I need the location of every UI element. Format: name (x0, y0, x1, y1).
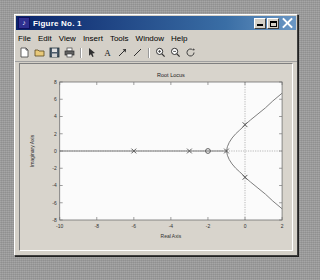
maximize-button[interactable] (267, 18, 279, 29)
insert-line-icon[interactable] (131, 46, 144, 59)
svg-text:A: A (104, 48, 111, 58)
menu-item-view[interactable]: View (59, 34, 76, 43)
window-title: Figure No. 1 (33, 19, 253, 28)
y-tick-label: 2 (54, 131, 57, 137)
y-tick-label: -6 (52, 200, 57, 206)
close-button[interactable] (280, 17, 295, 30)
x-tick-label: 0 (244, 223, 247, 229)
minimize-button[interactable] (254, 18, 266, 29)
menu-item-insert[interactable]: Insert (83, 34, 103, 43)
print-figure-icon[interactable] (63, 46, 76, 59)
zoom-in-icon[interactable] (154, 46, 167, 59)
insert-arrow-icon[interactable] (116, 46, 129, 59)
figure-canvas[interactable]: Root Locus-10-8-6-4-202-8-6-4-202468Real… (19, 63, 293, 251)
open-file-icon[interactable] (33, 46, 46, 59)
figure-window: ♪ Figure No. 1 File Edit View Insert Too… (14, 14, 298, 256)
y-tick-label: -2 (52, 165, 57, 171)
toolbar-separator (148, 48, 150, 58)
x-tick-label: -4 (169, 223, 174, 229)
root-locus-plot: Root Locus-10-8-6-4-202-8-6-4-202468Real… (20, 64, 292, 250)
menu-item-file[interactable]: File (18, 34, 31, 43)
menu-item-edit[interactable]: Edit (38, 34, 52, 43)
toolbar-separator (80, 48, 82, 58)
insert-text-icon[interactable]: A (101, 46, 114, 59)
x-tick-label: -2 (206, 223, 211, 229)
edit-plot-icon[interactable] (86, 46, 99, 59)
tool-bar: A (15, 44, 297, 62)
y-tick-label: -8 (52, 217, 57, 223)
x-tick-label: -6 (132, 223, 137, 229)
rotate-3d-icon[interactable] (184, 46, 197, 59)
new-figure-icon[interactable] (18, 46, 31, 59)
x-tick-label: -8 (95, 223, 100, 229)
matlab-icon: ♪ (18, 17, 30, 29)
x-axis-label: Real Axis (161, 233, 182, 239)
x-tick-label: 2 (281, 223, 284, 229)
menu-item-window[interactable]: Window (136, 34, 164, 43)
save-figure-icon[interactable] (48, 46, 61, 59)
y-axis-label: Imaginary Axis (29, 134, 35, 167)
x-tick-label: -10 (56, 223, 63, 229)
menu-item-help[interactable]: Help (171, 34, 187, 43)
plot-title: Root Locus (157, 72, 185, 78)
y-tick-label: -4 (52, 182, 57, 188)
y-tick-label: 6 (54, 96, 57, 102)
zoom-out-icon[interactable] (169, 46, 182, 59)
y-tick-label: 4 (54, 113, 57, 119)
menu-bar: File Edit View Insert Tools Window Help (15, 31, 297, 44)
title-bar[interactable]: ♪ Figure No. 1 (16, 16, 296, 30)
menu-item-tools[interactable]: Tools (110, 34, 129, 43)
y-tick-label: 8 (54, 79, 57, 85)
y-tick-label: 0 (54, 148, 57, 154)
